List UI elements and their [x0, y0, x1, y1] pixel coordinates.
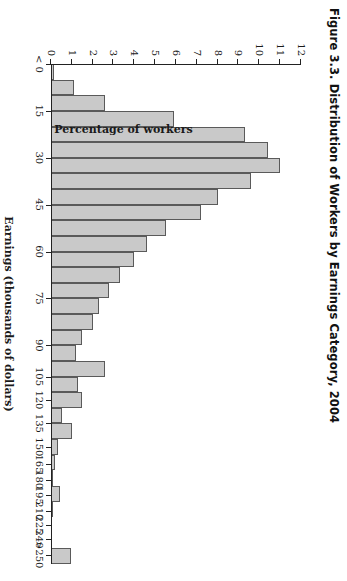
y-tick [154, 59, 155, 64]
bar [51, 439, 58, 455]
bar [51, 330, 82, 346]
y-tick [71, 59, 72, 64]
bar [51, 548, 71, 564]
bar [51, 95, 105, 111]
y-tick [300, 59, 301, 64]
bar-cell [51, 220, 301, 236]
bar [51, 298, 99, 314]
y-tick-label: 8 [213, 50, 223, 56]
x-tick [46, 464, 51, 465]
x-tick [46, 252, 51, 253]
bar [51, 252, 134, 268]
x-tick-label: 15 [34, 105, 44, 118]
bar-cell [51, 267, 301, 283]
y-tick [238, 59, 239, 64]
y-tick-label: 5 [150, 50, 160, 56]
bar-cell [51, 252, 301, 268]
x-tick [46, 480, 51, 481]
plot-inner: 0123456789101112 < 015304560759010512013… [51, 64, 301, 564]
bar-cell [51, 80, 301, 96]
bar [51, 173, 251, 189]
bar-cell [51, 439, 301, 455]
bar-cell [51, 361, 301, 377]
y-axis-line [51, 64, 301, 65]
bar [51, 142, 268, 158]
bar [51, 361, 105, 377]
bar [51, 423, 72, 439]
x-tick [46, 525, 51, 526]
bar-cell [51, 345, 301, 361]
y-axis-title: Percentage of workers [0, 123, 249, 136]
x-tick [46, 345, 51, 346]
bar-cell [51, 408, 301, 424]
x-tick [46, 447, 51, 448]
x-tick-label: 135 [34, 414, 44, 433]
x-tick [46, 205, 51, 206]
bar [51, 345, 76, 361]
y-tick-label: 9 [234, 50, 244, 56]
y-tick-label: 12 [296, 43, 306, 56]
bar-cell [51, 548, 301, 564]
bar-cell [51, 517, 301, 533]
x-tick-label: 75 [34, 292, 44, 305]
y-tick [258, 59, 259, 64]
x-tick-label: 30 [34, 151, 44, 164]
bar [51, 283, 109, 299]
bar-cell [51, 455, 301, 471]
bar-cell [51, 533, 301, 549]
y-tick-label: 10 [254, 43, 264, 56]
bar-cell [51, 392, 301, 408]
y-tick-label: 11 [275, 43, 285, 56]
bar-cell [51, 283, 301, 299]
x-tick [46, 158, 51, 159]
y-tick-label: 3 [109, 50, 119, 56]
x-tick-label: 90 [34, 339, 44, 352]
bar [51, 205, 201, 221]
bar [51, 236, 147, 252]
x-tick-label: 45 [34, 198, 44, 211]
x-tick [46, 555, 51, 556]
x-tick [46, 64, 51, 65]
y-tick-label: 2 [88, 50, 98, 56]
y-tick [92, 59, 93, 64]
y-tick [217, 59, 218, 64]
bar-cell [51, 205, 301, 221]
bar-cell [51, 470, 301, 486]
figure-container: Figure 3.3. Distribution of Workers by E… [0, 0, 347, 581]
x-tick-label: < 0 [34, 55, 44, 73]
x-tick-label: 105 [34, 367, 44, 386]
bar-cell [51, 173, 301, 189]
x-tick [46, 511, 51, 512]
bar [51, 189, 218, 205]
x-tick [46, 111, 51, 112]
x-axis-line [51, 64, 52, 564]
x-tick [46, 423, 51, 424]
bar-cell [51, 236, 301, 252]
x-tick-label: 60 [34, 245, 44, 258]
bar-cell [51, 502, 301, 518]
y-tick-label: 4 [129, 50, 139, 56]
bar [51, 314, 93, 330]
bar-cell [51, 64, 301, 80]
bar-cell [51, 377, 301, 393]
y-tick [133, 59, 134, 64]
bar [51, 80, 74, 96]
bar-cell [51, 189, 301, 205]
y-tick-label: 1 [67, 50, 77, 56]
y-tick-label: 6 [171, 50, 181, 56]
bar-cell [51, 95, 301, 111]
x-tick-label: 120 [34, 390, 44, 409]
bar-cell [51, 142, 301, 158]
bar-cell [51, 423, 301, 439]
x-tick [46, 495, 51, 496]
y-tick [113, 59, 114, 64]
y-tick [279, 59, 280, 64]
bar-cell [51, 314, 301, 330]
bar-cell [51, 330, 301, 346]
bar [51, 220, 166, 236]
bar [51, 158, 280, 174]
x-axis-title: Earnings (thousands of dollars) [2, 64, 15, 564]
bar-cell [51, 158, 301, 174]
bar-series [51, 64, 301, 564]
figure-title: Figure 3.3. Distribution of Workers by E… [327, 8, 341, 423]
